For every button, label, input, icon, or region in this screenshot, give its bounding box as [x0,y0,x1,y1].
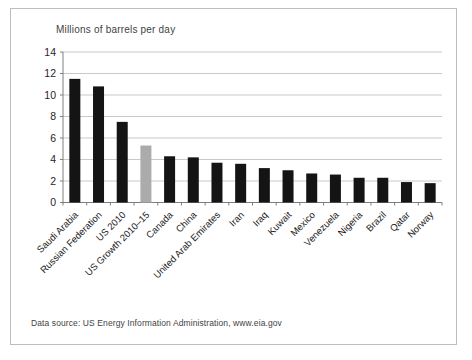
category-label: Iraq [250,209,269,228]
source-note: Data source: US Energy Information Admin… [31,318,282,328]
category-label: Norway [405,209,436,240]
bar-venezuela [330,175,341,203]
bar-china [188,157,199,202]
y-tick-label: 6 [50,132,56,144]
bar-iraq [259,168,270,202]
bar-iran [235,164,246,203]
bar-qatar [401,182,412,202]
y-tick-label: 2 [50,175,56,187]
y-tick-label: 4 [50,153,56,165]
category-label: Iran [227,209,246,228]
bar-nigeria [354,178,365,203]
bar-brazil [377,178,388,203]
y-tick-label: 14 [44,46,56,58]
bar-saudi-arabia [69,79,80,203]
bar-chart: 02468101214Saudi ArabiaRussian Federatio… [10,8,457,345]
bar-norway [425,183,436,202]
category-label: Brazil [364,209,389,234]
bar-us-growth-2010-15 [140,146,151,203]
y-tick-label: 10 [44,89,56,101]
category-label: Canada [144,209,176,241]
bar-canada [164,156,175,202]
category-label: Nigeria [335,209,365,239]
y-tick-label: 0 [50,196,56,208]
bar-mexico [306,173,317,202]
chart-figure: Millions of barrels per day 02468101214S… [10,8,457,345]
bar-kuwait [283,170,294,202]
bar-russian-federation [93,86,104,202]
bar-united-arab-emirates [211,163,222,203]
y-tick-label: 8 [50,110,56,122]
bar-us-2010 [117,122,128,203]
y-tick-label: 12 [44,67,56,79]
